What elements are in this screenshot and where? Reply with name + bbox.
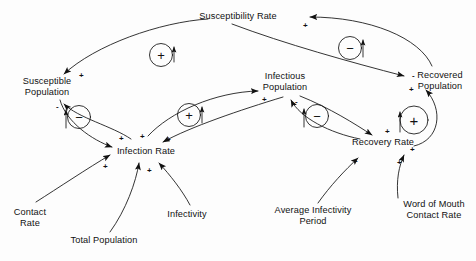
polarity-infection-from-contact-rate: + [103,163,108,171]
polarity-recovered-plus: + [409,86,414,94]
node-label-average-infectivity-period: Average Infectivity Period [275,205,352,227]
node-label-susceptible-population: Susceptible Population [23,76,72,98]
node-text-recovered-line2: Population [417,81,462,92]
node-text-recovery-rate: Recovery Rate [352,137,414,148]
link-recovery-rate-to-infectious-population [291,100,360,139]
link-infectivity-to-infection-rate [159,163,190,205]
node-text-word-of-mouth-line1: Word of Mouth [403,199,464,210]
loop-sign-reinforcing-recovery: + [410,114,419,127]
polarity-infection-in-3: + [166,136,171,144]
node-label-total-population: Total Population [71,235,138,246]
polarity-infection-in-2: + [140,133,145,141]
link-infectious-population-to-recovery-rate [300,96,372,135]
polarity-infection-from-infectivity: + [147,167,152,175]
polarity-susceptibility-rate-in: + [303,22,308,30]
polarity-susceptible-out: - [56,103,59,111]
node-text-susceptible-line2: Population [23,87,72,98]
node-text-infectivity: Infectivity [167,209,206,220]
node-text-avg-infectivity-line1: Average Infectivity [275,205,352,216]
node-text-avg-infectivity-line2: Period [275,216,352,227]
node-label-contact-rate: Contact Rate [14,207,46,229]
link-contact-rate-to-infection-rate [36,155,110,202]
node-label-susceptibility-rate: Susceptibility Rate [199,11,276,22]
node-text-infection-rate: Infection Rate [117,146,175,157]
node-text-susceptible-line1: Susceptible [23,76,72,87]
loop-sign-balancing-susceptible: − [75,111,83,124]
polarity-recovery-in-3: + [397,159,402,167]
loop-sign-reinforcing-infection: + [185,109,193,122]
polarity-recovery-from-avg-period: - [355,157,358,165]
node-text-word-of-mouth-line2: Contact Rate [403,210,464,221]
link-susceptibility-rate-to-susceptible-population [64,19,208,74]
node-text-contact-line2: Rate [14,218,46,229]
link-total-population-to-infection-rate [110,163,139,232]
node-text-susceptibility-rate: Susceptibility Rate [199,11,276,22]
node-label-recovered-population: Recovered Population [417,70,462,92]
node-label-infectivity: Infectivity [167,209,206,220]
polarity-recovery-in-1: + [385,128,390,136]
node-label-recovery-rate: Recovery Rate [352,137,414,148]
polarity-recovered-in: - [412,72,415,80]
node-label-infection-rate: Infection Rate [117,146,175,157]
polarity-recovery-in-2: + [410,146,415,154]
node-label-word-of-mouth-contact-rate: Word of Mouth Contact Rate [403,199,464,221]
link-infection-rate-to-infectious-population [148,91,258,136]
loop-sign-reinforcing-top-left: + [157,49,165,62]
node-label-infectious-population: Infectious Population [263,71,307,93]
link-susceptibility-rate-to-recovered-population [232,24,404,76]
causal-loop-diagram-canvas [0,0,476,261]
node-text-recovered-line1: Recovered [417,70,462,81]
node-text-total-population: Total Population [71,235,138,246]
link-average-infectivity-period-to-recovery-rate [318,158,358,203]
node-text-contact-line1: Contact [14,207,46,218]
polarity-infection-in-1: + [119,135,124,143]
node-text-infectious-line2: Population [263,82,307,93]
link-recovered-population-to-susceptibility-rate [310,17,432,66]
polarity-infectious-out: - [295,98,298,106]
node-text-infectious-line1: Infectious [263,71,307,82]
loop-sign-balancing-infectious: − [313,110,321,123]
polarity-susceptible-in: + [79,72,84,80]
polarity-infectious-in: + [262,96,267,104]
loop-sign-balancing-top-right: − [346,42,354,55]
